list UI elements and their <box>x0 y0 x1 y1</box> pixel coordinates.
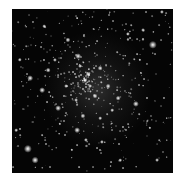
star <box>68 79 70 81</box>
star <box>75 53 81 59</box>
star <box>146 135 148 137</box>
star <box>33 37 35 39</box>
star <box>165 156 168 159</box>
star <box>71 126 73 128</box>
star <box>40 46 43 49</box>
star <box>107 43 108 44</box>
star <box>66 131 68 133</box>
star <box>128 63 131 66</box>
star <box>169 63 171 65</box>
star <box>80 20 82 22</box>
star <box>79 133 81 135</box>
star <box>168 87 170 89</box>
star <box>97 84 99 86</box>
star <box>73 72 76 75</box>
star <box>40 60 42 62</box>
star <box>43 48 45 50</box>
star <box>134 77 136 79</box>
star <box>162 96 165 99</box>
star <box>44 109 46 111</box>
star <box>85 123 87 125</box>
star <box>119 86 121 88</box>
star <box>160 141 162 143</box>
star <box>78 23 80 25</box>
star <box>45 165 46 166</box>
star <box>73 87 75 89</box>
star <box>117 142 120 145</box>
star <box>170 117 172 119</box>
star <box>138 113 141 116</box>
star <box>110 122 113 125</box>
star <box>51 116 52 117</box>
star <box>57 67 60 70</box>
star <box>100 140 104 144</box>
star <box>79 46 81 48</box>
star <box>75 67 78 70</box>
star <box>88 60 90 62</box>
star <box>124 23 127 26</box>
star <box>12 94 13 95</box>
star <box>47 11 48 12</box>
star <box>124 54 126 56</box>
star <box>122 166 125 169</box>
star <box>76 143 79 146</box>
star <box>30 89 31 90</box>
star <box>168 23 169 24</box>
star <box>99 76 101 78</box>
star <box>61 53 63 55</box>
star <box>91 16 93 18</box>
star <box>34 166 35 167</box>
star <box>145 111 146 112</box>
star <box>135 61 136 62</box>
star <box>116 101 118 103</box>
star <box>131 126 133 128</box>
star <box>64 80 66 82</box>
star <box>21 80 23 82</box>
star <box>89 90 91 92</box>
star <box>110 161 113 164</box>
star <box>83 130 85 132</box>
star <box>49 165 52 168</box>
star <box>126 32 130 36</box>
star <box>112 105 115 108</box>
star <box>55 130 57 132</box>
star <box>131 113 133 115</box>
star <box>158 24 161 27</box>
star <box>103 53 104 54</box>
star <box>85 97 87 99</box>
star <box>96 112 98 114</box>
star <box>84 13 87 16</box>
star <box>71 25 73 27</box>
star <box>48 145 50 147</box>
star <box>18 128 21 131</box>
star <box>127 126 130 129</box>
star <box>166 139 169 142</box>
star <box>131 17 132 18</box>
star <box>155 73 157 75</box>
star <box>96 147 99 150</box>
star <box>116 51 119 54</box>
star <box>65 102 67 104</box>
star <box>60 51 61 52</box>
star <box>149 115 152 118</box>
star <box>64 50 66 52</box>
star <box>70 93 73 96</box>
star <box>102 126 105 129</box>
star <box>118 129 121 132</box>
star <box>64 77 66 79</box>
star <box>80 71 81 72</box>
star <box>14 45 16 47</box>
star <box>142 84 145 87</box>
star <box>162 150 165 153</box>
star <box>136 53 139 56</box>
star <box>137 118 139 120</box>
star <box>87 98 90 101</box>
star <box>51 96 54 99</box>
star <box>33 116 36 119</box>
star <box>82 33 85 36</box>
star <box>14 128 18 132</box>
star <box>47 61 50 64</box>
star <box>96 90 99 93</box>
star <box>96 99 98 101</box>
star <box>126 137 127 138</box>
